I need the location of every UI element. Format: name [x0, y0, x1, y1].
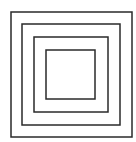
square-second — [22, 24, 120, 125]
square-outer — [11, 12, 132, 137]
square-inner — [46, 50, 95, 99]
concentric-squares-diagram — [0, 0, 136, 142]
square-third — [34, 37, 108, 112]
